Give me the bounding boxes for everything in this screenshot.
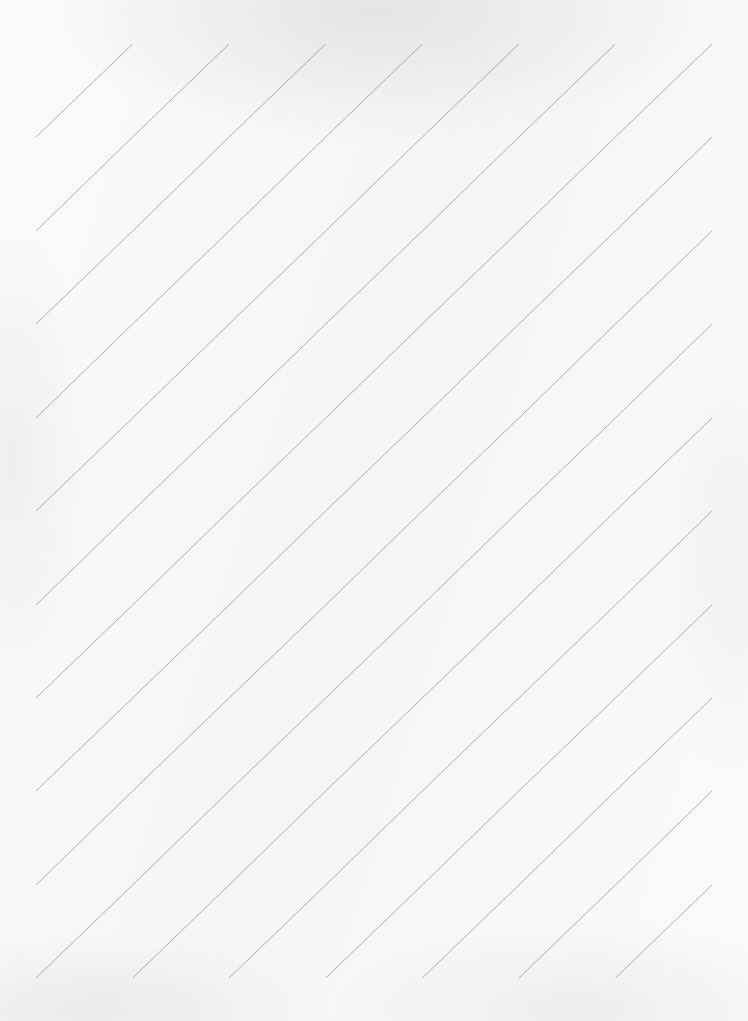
slant-guide-r7-c1: [36, 605, 133, 698]
slant-guide-r5-c3: [229, 418, 326, 511]
slant-guide-r3-c7: [615, 231, 712, 324]
slant-guide-lines: [36, 44, 712, 978]
slant-guide-r3-c5: [422, 231, 519, 324]
slant-guide-r3-c4: [326, 231, 423, 324]
slant-guide-r7-c2: [133, 605, 230, 698]
slant-guide-r8-c7: [615, 698, 712, 791]
slant-guide-r9-c3: [229, 791, 326, 885]
slant-guide-r5-c5: [422, 418, 519, 511]
calligraphy-grid: [0, 0, 748, 1021]
slant-guide-r6-c2: [133, 511, 230, 605]
slant-guide-r5-c2: [133, 418, 230, 511]
slant-guide-r8-c3: [229, 698, 326, 791]
slant-guide-r9-c6: [519, 791, 616, 885]
slant-guide-r3-c3: [229, 231, 326, 324]
slant-guide-r7-c3: [229, 605, 326, 698]
slant-guide-r2-c5: [422, 137, 519, 231]
slant-guide-r7-c5: [422, 605, 519, 698]
slant-guide-r8-c2: [133, 698, 230, 791]
slant-guide-r2-c7: [615, 137, 712, 231]
slant-guide-r2-c1: [36, 137, 133, 231]
slant-guide-r8-c4: [326, 698, 423, 791]
slant-guide-r10-c2: [133, 885, 230, 978]
slant-guide-r2-c4: [326, 137, 423, 231]
slant-guide-r10-c7: [615, 885, 712, 978]
slant-guide-r8-c6: [519, 698, 616, 791]
slant-guide-r9-c5: [422, 791, 519, 885]
slant-guide-r1-c2: [133, 44, 230, 137]
slant-guide-r6-c6: [519, 511, 616, 605]
slant-guide-r4-c5: [422, 324, 519, 418]
slant-guide-r8-c1: [36, 698, 133, 791]
slant-guide-r10-c1: [36, 885, 133, 978]
slant-guide-r10-c5: [422, 885, 519, 978]
slant-guide-r2-c6: [519, 137, 616, 231]
slant-guide-r6-c1: [36, 511, 133, 605]
slant-guide-r9-c2: [133, 791, 230, 885]
slant-guide-r7-c4: [326, 605, 423, 698]
slant-guide-r1-c4: [326, 44, 423, 137]
slant-guide-r4-c2: [133, 324, 230, 418]
slant-guide-r4-c4: [326, 324, 423, 418]
slant-guide-r4-c3: [229, 324, 326, 418]
slant-guide-r9-c7: [615, 791, 712, 885]
slant-guide-r1-c6: [519, 44, 616, 137]
slant-guide-r9-c4: [326, 791, 423, 885]
slant-guide-r4-c7: [615, 324, 712, 418]
slant-guide-r3-c1: [36, 231, 133, 324]
slant-guide-r5-c1: [36, 418, 133, 511]
slant-guide-r6-c4: [326, 511, 423, 605]
slant-guide-r10-c6: [519, 885, 616, 978]
slant-guide-r6-c5: [422, 511, 519, 605]
slant-guide-r6-c7: [615, 511, 712, 605]
slant-guide-r9-c1: [36, 791, 133, 885]
slant-guide-r7-c6: [519, 605, 616, 698]
slant-guide-r8-c5: [422, 698, 519, 791]
slant-guide-r1-c3: [229, 44, 326, 137]
slant-guide-r1-c1: [36, 44, 133, 137]
slant-guide-r3-c2: [133, 231, 230, 324]
slant-guide-r7-c7: [615, 605, 712, 698]
slant-guide-r5-c7: [615, 418, 712, 511]
slant-guide-r2-c2: [133, 137, 230, 231]
slant-guide-r10-c3: [229, 885, 326, 978]
slant-guide-r10-c4: [326, 885, 423, 978]
practice-sheet-page: Calligraphy Slant Practice Grid: [0, 0, 748, 1021]
slant-guide-r2-c3: [229, 137, 326, 231]
slant-guide-r5-c4: [326, 418, 423, 511]
slant-guide-r4-c6: [519, 324, 616, 418]
slant-guide-r1-c5: [422, 44, 519, 137]
slant-guide-r3-c6: [519, 231, 616, 324]
slant-guide-r1-c7: [615, 44, 712, 137]
slant-guide-r4-c1: [36, 324, 133, 418]
slant-guide-r5-c6: [519, 418, 616, 511]
slant-guide-r6-c3: [229, 511, 326, 605]
